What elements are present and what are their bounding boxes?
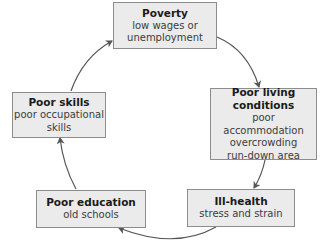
node-poor-living-conditions: Poor living conditions poor accommodatio… bbox=[210, 88, 317, 160]
node-poor-skills: Poor skills poor occupational skills bbox=[12, 92, 106, 138]
node-title: Poor skills bbox=[28, 96, 89, 109]
node-poor-education: Poor education old schools bbox=[36, 190, 146, 228]
node-ill-health: Ill-health stress and strain bbox=[187, 189, 295, 227]
node-desc: unemployment bbox=[127, 32, 203, 45]
node-desc: skills bbox=[47, 122, 72, 135]
arrow-education-to-skills bbox=[60, 138, 76, 189]
node-desc: poor occupational bbox=[14, 109, 104, 122]
node-title: Poverty bbox=[142, 7, 188, 20]
node-desc: overcrowding bbox=[230, 137, 298, 150]
poverty-cycle-diagram: Poverty low wages or unemployment Poor l… bbox=[0, 0, 321, 249]
node-desc: poor accommodation bbox=[211, 112, 316, 137]
node-title: Poor living bbox=[232, 86, 296, 99]
arrow-poverty-to-living bbox=[217, 37, 259, 87]
node-title: Poor education bbox=[46, 196, 136, 209]
arrow-health-to-education bbox=[119, 227, 216, 239]
node-title: conditions bbox=[233, 99, 295, 112]
arrow-living-to-health bbox=[254, 160, 265, 188]
node-poverty: Poverty low wages or unemployment bbox=[113, 2, 217, 49]
node-desc: old schools bbox=[63, 209, 119, 222]
node-desc: low wages or bbox=[132, 20, 198, 33]
node-title: Ill-health bbox=[214, 195, 267, 208]
node-desc: stress and strain bbox=[199, 208, 282, 221]
node-desc: run-down area bbox=[227, 150, 300, 163]
arrow-skills-to-poverty bbox=[71, 41, 112, 91]
